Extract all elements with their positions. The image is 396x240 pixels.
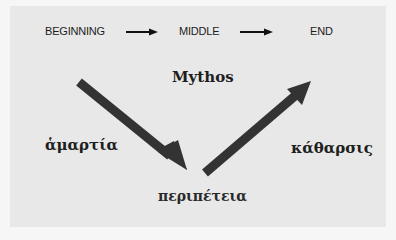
sequence-arrow-1-icon [126,29,158,36]
stage-peripeteia: περιπέτεια [158,188,247,204]
descent-arrow-icon [79,82,187,170]
sequence-arrow-2-icon [240,29,273,36]
mythos-title: Mythos [172,68,234,86]
stage-katharsis: κάθαρσις [291,139,373,157]
ascent-arrow-icon [205,81,311,173]
stage-hamartia: ἁμαρτία [45,136,118,154]
